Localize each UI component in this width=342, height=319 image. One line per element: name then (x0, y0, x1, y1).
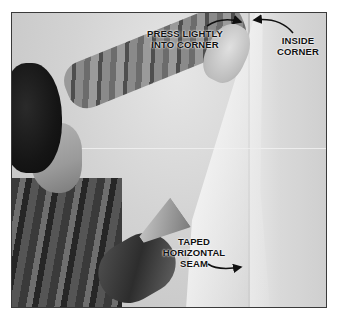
label-line: PRESS LIGHTLY (146, 28, 224, 39)
label-line: CORNER (274, 46, 322, 57)
label-taped-seam: TAPED HORIZONTAL SEAM (162, 236, 226, 269)
label-line: INTO CORNER (146, 39, 224, 50)
label-line: HORIZONTAL (162, 247, 226, 258)
label-line: TAPED (162, 236, 226, 247)
label-press-lightly: PRESS LIGHTLY INTO CORNER (146, 28, 224, 50)
label-inside-corner: INSIDE CORNER (274, 35, 322, 57)
label-line: SEAM (162, 258, 226, 269)
label-line: INSIDE (274, 35, 322, 46)
